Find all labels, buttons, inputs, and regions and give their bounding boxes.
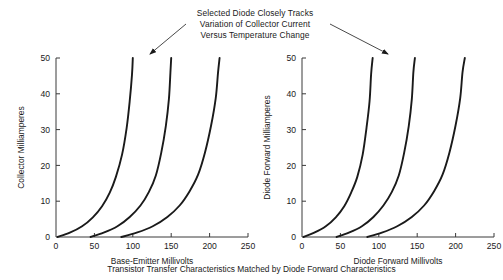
x-tick-label: 50	[90, 241, 100, 251]
curve-2	[337, 58, 415, 237]
y-tick-label: 10	[40, 196, 50, 206]
x-tick-label: 100	[372, 241, 387, 251]
curve-1	[58, 58, 133, 237]
y-tick-label: 10	[286, 196, 296, 206]
y-tick-label: 0	[291, 232, 296, 242]
x-tick-label: 200	[202, 241, 217, 251]
x-tick-label: 150	[410, 241, 425, 251]
curve-3	[367, 58, 465, 237]
x-tick-label: 200	[448, 241, 463, 251]
annotation-arrow-right	[330, 24, 388, 54]
y-tick-label: 20	[40, 161, 50, 171]
y-tick-label: 50	[286, 53, 296, 63]
x-tick-label: 250	[487, 241, 502, 251]
y-axis-title: Collector Milliamperes	[16, 106, 26, 188]
y-tick-label: 30	[40, 125, 50, 135]
y-tick-label: 40	[40, 89, 50, 99]
figure-caption: Transistor Transfer Characteristics Matc…	[0, 264, 503, 274]
y-tick-label: 30	[286, 125, 296, 135]
x-tick-label: 0	[54, 241, 59, 251]
y-axis-title: Diode Forward Milliamperes	[262, 95, 272, 199]
curve-1	[304, 58, 373, 237]
x-tick-label: 250	[241, 241, 256, 251]
y-tick-label: 50	[40, 53, 50, 63]
chart-transistor-transfer: 05010015020025001020304050Base-Emitter M…	[16, 53, 255, 266]
x-tick-label: 100	[126, 241, 141, 251]
y-tick-label: 40	[286, 89, 296, 99]
figure-root: Selected Diode Closely Tracks Variation …	[0, 0, 503, 280]
x-tick-label: 0	[300, 241, 305, 251]
chart-diode-forward: 05010015020025001020304050Diode Forward …	[262, 53, 501, 266]
y-tick-label: 20	[286, 161, 296, 171]
annotation-arrow-left	[150, 24, 186, 54]
charts-canvas: 05010015020025001020304050Base-Emitter M…	[0, 0, 503, 280]
x-tick-label: 150	[164, 241, 179, 251]
x-tick-label: 50	[336, 241, 346, 251]
y-tick-label: 0	[45, 232, 50, 242]
